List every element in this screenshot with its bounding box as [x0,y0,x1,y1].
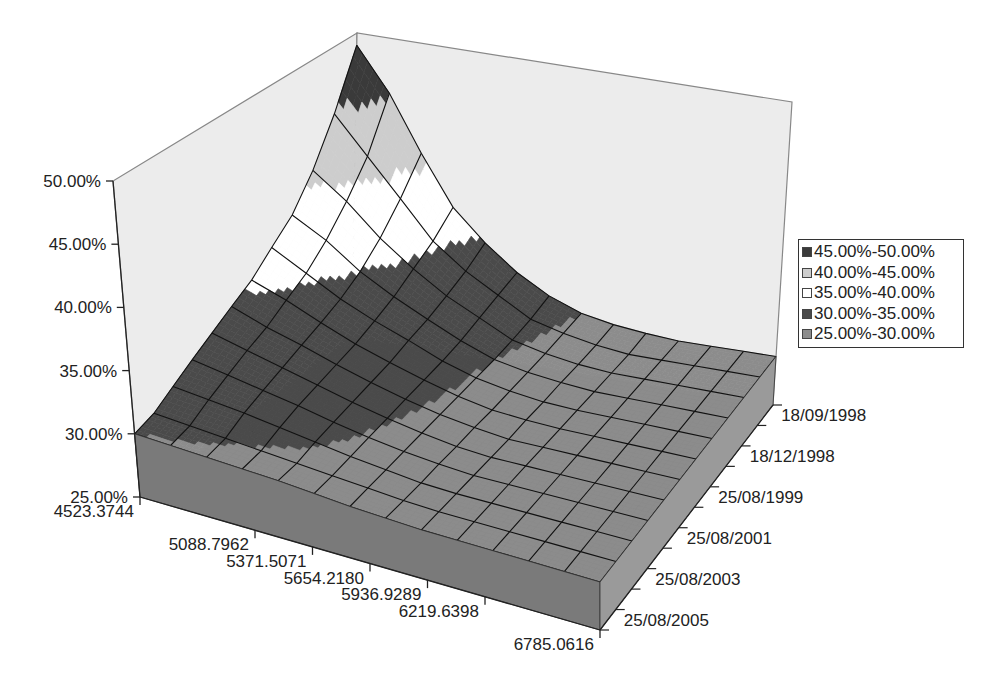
x-tick-label: 6785.0616 [514,635,594,654]
legend-swatch-icon [802,288,812,298]
legend-item: 40.00%-45.00% [802,263,963,284]
z-tick-label: 50.00% [43,172,101,191]
y-tick-label: 25/08/1999 [718,488,803,507]
z-tick-label: 45.00% [49,235,107,254]
z-tick-label: 35.00% [60,362,118,381]
legend-item: 45.00%-50.00% [802,242,963,263]
legend-item: 30.00%-35.00% [802,304,963,325]
x-tick-label: 4523.3744 [54,502,134,521]
legend-item: 25.00%-30.00% [802,324,963,345]
z-axis-labels: 25.00%30.00%35.00%40.00%45.00%50.00% [43,172,128,507]
legend-label: 30.00%-35.00% [814,304,935,324]
y-tick-label: 18/09/1998 [781,406,866,425]
y-tick-label: 18/12/1998 [750,447,835,466]
legend-swatch-icon [802,329,812,339]
z-tick-label: 40.00% [54,298,112,317]
legend-swatch-icon [802,268,812,278]
legend-label: 25.00%-30.00% [814,324,935,344]
legend-item: 35.00%-40.00% [802,283,963,304]
legend-swatch-icon [802,247,812,257]
legend-label: 45.00%-50.00% [814,242,935,262]
y-tick-label: 25/08/2003 [655,570,740,589]
legend-label: 40.00%-45.00% [814,263,935,283]
chart-legend: 45.00%-50.00% 40.00%-45.00% 35.00%-40.00… [798,239,964,348]
y-tick-label: 25/08/2005 [624,611,709,630]
legend-label: 35.00%-40.00% [814,283,935,303]
x-tick-label: 6219.6398 [399,602,479,621]
y-tick-label: 25/08/2001 [687,529,772,548]
legend-swatch-icon [802,309,812,319]
z-tick-label: 30.00% [65,425,123,444]
